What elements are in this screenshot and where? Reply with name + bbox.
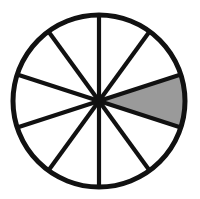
fraction-circle-figure: Circle divided into ten equal sectors wi… [0,0,200,199]
fraction-circle-diagram: Circle divided into ten equal sectors wi… [0,0,200,199]
